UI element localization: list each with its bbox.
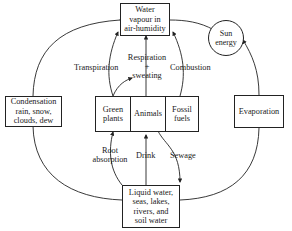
transpiration-label: Transpiration [74, 63, 118, 72]
liquid-line-1: Liquid water, [129, 188, 173, 198]
sewage-label: Sewage [170, 151, 196, 160]
plants-line-2: plants [103, 114, 123, 124]
evaporation-label: Evaporation [239, 107, 280, 117]
root-absorption-label: Root absorption [90, 146, 130, 164]
liquid-water-node: Liquid water, seas, lakes, rivers, and s… [122, 185, 180, 228]
sun-line-1: Sun [220, 29, 232, 38]
drink-label: Drink [136, 151, 155, 160]
vapour-line-3: air-humidity [124, 24, 165, 34]
vapour-line-1: Water [135, 5, 155, 15]
combustion-label: Combustion [170, 63, 211, 72]
liquid-line-2: seas, lakes, [132, 197, 169, 207]
respiration-line-3: sweating [126, 71, 168, 80]
fossil-line-2: fuels [174, 114, 190, 124]
animals-node: Animals [131, 97, 166, 131]
respiration-plus: + [126, 62, 168, 71]
sun-line-2: energy [215, 38, 237, 47]
liquid-line-3: rivers, and [133, 207, 168, 217]
evaporation-node: Evaporation [234, 95, 284, 128]
respiration-label: Respiration + sweating [126, 53, 168, 80]
root-line-1: Root [90, 146, 130, 155]
fossil-line-1: Fossil [172, 105, 192, 115]
water-vapour-node: Water vapour in air-humidity [120, 3, 170, 36]
respiration-line-1: Respiration [126, 53, 168, 62]
organisms-group: Green plants Animals Fossil fuels [95, 96, 199, 132]
condensation-line-3: clouds, dew [14, 116, 54, 126]
animals-label: Animals [134, 109, 162, 119]
condensation-node: Condensation rain, snow, clouds, dew [5, 96, 62, 127]
vapour-line-2: vapour in [129, 15, 161, 25]
sun-energy-node: Sun energy [208, 20, 244, 56]
plants-line-1: Green [103, 105, 123, 115]
root-line-2: absorption [90, 155, 130, 164]
green-plants-node: Green plants [96, 97, 131, 131]
liquid-line-4: soil water [135, 216, 168, 226]
condensation-line-2: rain, snow, [15, 107, 51, 117]
condensation-line-1: Condensation [11, 97, 57, 107]
fossil-fuels-node: Fossil fuels [166, 97, 198, 131]
